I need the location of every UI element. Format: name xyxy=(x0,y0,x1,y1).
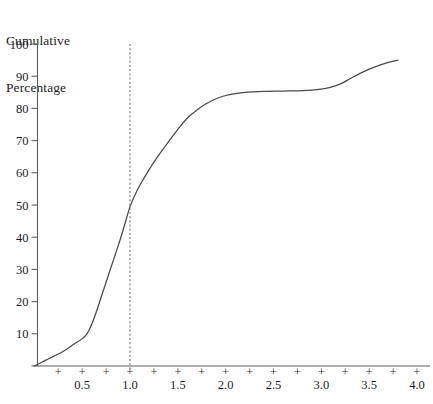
x-tick-marker: + xyxy=(246,365,253,379)
x-tick-marker: + xyxy=(174,365,181,379)
cumulative-percentage-curve xyxy=(34,60,398,366)
x-tick-label: 2.5 xyxy=(266,378,282,392)
y-tick-label: 30 xyxy=(16,263,29,277)
x-tick-marker: + xyxy=(127,365,134,379)
y-tick-label: 50 xyxy=(16,199,29,213)
x-tick-marker: + xyxy=(318,365,325,379)
x-tick-marker: + xyxy=(151,365,158,379)
y-tick-label: 60 xyxy=(16,166,29,180)
y-axis: 102030405060708090100 xyxy=(10,38,38,367)
x-tick-marker: + xyxy=(414,365,421,379)
x-tick-label: 1.0 xyxy=(122,378,138,392)
x-tick-marker: + xyxy=(55,365,62,379)
x-tick-label: 0.5 xyxy=(74,378,90,392)
x-tick-label: 4.0 xyxy=(409,378,425,392)
x-axis: ++++++++++++++++0.51.01.52.02.53.03.54.0 xyxy=(37,365,430,392)
x-tick-group: ++++++++++++++++0.51.01.52.02.53.03.54.0 xyxy=(55,365,425,392)
y-tick-label: 10 xyxy=(16,327,29,341)
y-tick-label: 90 xyxy=(16,70,29,84)
x-tick-marker: + xyxy=(294,365,301,379)
x-tick-label: 3.5 xyxy=(361,378,377,392)
y-tick-label: 80 xyxy=(16,102,29,116)
y-tick-label: 20 xyxy=(16,295,29,309)
x-tick-marker: + xyxy=(270,365,277,379)
y-tick-label: 40 xyxy=(16,231,29,245)
x-tick-marker: + xyxy=(79,365,86,379)
x-tick-label: 3.0 xyxy=(314,378,330,392)
x-tick-marker: + xyxy=(103,365,110,379)
x-tick-marker: + xyxy=(390,365,397,379)
x-tick-marker: + xyxy=(198,365,205,379)
x-axis-caption xyxy=(0,393,433,404)
y-tick-group: 102030405060708090100 xyxy=(10,38,38,367)
x-tick-marker: + xyxy=(222,365,229,379)
y-tick-label: 100 xyxy=(10,38,29,52)
plot-area: 102030405060708090100 ++++++++++++++++0.… xyxy=(0,0,433,404)
x-tick-label: 1.5 xyxy=(170,378,186,392)
cumulative-percentage-chart: Cumulative Percentage 102030405060708090… xyxy=(0,0,433,404)
x-tick-marker: + xyxy=(342,365,349,379)
x-tick-marker: + xyxy=(366,365,373,379)
x-tick-label: 2.0 xyxy=(218,378,234,392)
y-tick-label: 70 xyxy=(16,134,29,148)
